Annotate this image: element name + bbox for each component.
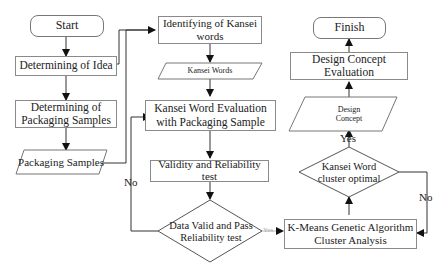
evaluation-label-1: Kansei Word Evaluation [154,102,267,115]
concept-eval-label-2: Evaluation [324,66,374,79]
identify-label-1: Identifying of Kansei [163,17,257,30]
start-terminal: Start [30,15,104,37]
packaging-samples-label: Packaging Samples [18,156,104,169]
determining-idea-box: Determining of Idea [15,56,117,76]
decision-valid-label-1: Data Valid and Pass [169,220,253,232]
no-valid-label: No [124,176,137,188]
yes-cluster-label: Yes [340,132,356,144]
start-label: Start [56,19,79,33]
kmeans-label-1: K-Means Genetic Algorithm [288,221,414,234]
kansei-words-io: Kansei Words [162,64,258,78]
samples-label-2: Packaging Samples [21,114,111,127]
decision-valid-label-2: Reliability test [180,232,242,244]
design-concept-label-1: Design [338,105,361,114]
kansei-words-label: Kansei Words [188,66,233,75]
concept-eval-label-1: Design Concept [312,53,386,66]
design-concept-evaluation-box: Design Concept Evaluation [290,52,408,80]
no-cluster-label: No [419,191,432,203]
identifying-kansei-box: Identifying of Kansei words [158,16,262,44]
finish-label: Finish [334,21,364,35]
identify-label-2: words [197,30,224,43]
kansei-evaluation-box: Kansei Word Evaluation with Packaging Sa… [145,100,276,131]
design-concept-io: Design Concept [305,100,393,128]
kmeans-box: K-Means Genetic Algorithm Cluster Analys… [284,219,417,249]
data-valid-decision: Data Valid and Pass Reliability test [165,220,257,244]
evaluation-label-2: with Packaging Sample [156,116,265,129]
idea-label: Determining of Idea [19,59,112,72]
cluster-label-1: Kansei Word [322,161,377,173]
validity-label-2: test [202,171,217,183]
samples-label-1: Determining of [31,101,102,114]
validity-box: Validity and Reliability test [150,160,269,182]
packaging-samples-io: Packaging Samples [18,151,104,173]
kmeans-label-2: Cluster Analysis [314,234,386,247]
cluster-optimal-decision: Kansei Word cluster optimal [309,160,389,186]
yes-valid-label: Yes [263,226,273,234]
cluster-label-2: cluster optimal [318,173,381,185]
finish-terminal: Finish [313,17,386,39]
design-concept-label-2: Concept [336,114,363,123]
determining-samples-box: Determining of Packaging Samples [15,100,117,128]
